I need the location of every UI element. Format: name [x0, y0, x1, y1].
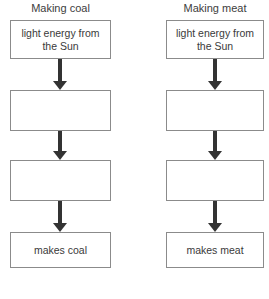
node-label: makes meat — [170, 244, 260, 257]
arrow-shaft — [213, 131, 217, 152]
down-arrow-icon — [52, 201, 68, 232]
arrow-shaft — [213, 59, 217, 82]
node-label: makes coal — [14, 244, 107, 257]
node-blank-2-coal — [10, 160, 111, 201]
node-makes-meat: makes meat — [166, 232, 264, 268]
down-arrow-icon — [207, 131, 223, 160]
dotted-separator — [0, 284, 269, 286]
arrow-shaft — [58, 201, 62, 224]
arrow-head — [53, 151, 67, 160]
arrow-head — [208, 151, 222, 160]
arrow-shaft — [58, 59, 62, 82]
down-arrow-icon — [207, 201, 223, 232]
node-blank-1-coal — [10, 90, 111, 131]
node-light-energy-meat: light energy from the Sun — [166, 20, 264, 59]
diagram-canvas: Making coal light energy from the Sun ma… — [0, 0, 269, 299]
column-title-making-meat: Making meat — [166, 1, 264, 15]
arrow-head — [53, 81, 67, 90]
arrow-shaft — [58, 131, 62, 152]
down-arrow-icon — [207, 59, 223, 90]
arrow-shaft — [213, 201, 217, 224]
arrow-head — [208, 223, 222, 232]
arrow-head — [53, 223, 67, 232]
node-label: light energy from the Sun — [170, 27, 260, 53]
node-label: light energy from the Sun — [14, 27, 107, 53]
node-blank-1-meat — [166, 90, 264, 131]
node-makes-coal: makes coal — [10, 232, 111, 268]
arrow-head — [208, 81, 222, 90]
down-arrow-icon — [52, 59, 68, 90]
node-blank-2-meat — [166, 160, 264, 201]
column-title-making-coal: Making coal — [10, 1, 111, 15]
node-light-energy-coal: light energy from the Sun — [10, 20, 111, 59]
down-arrow-icon — [52, 131, 68, 160]
